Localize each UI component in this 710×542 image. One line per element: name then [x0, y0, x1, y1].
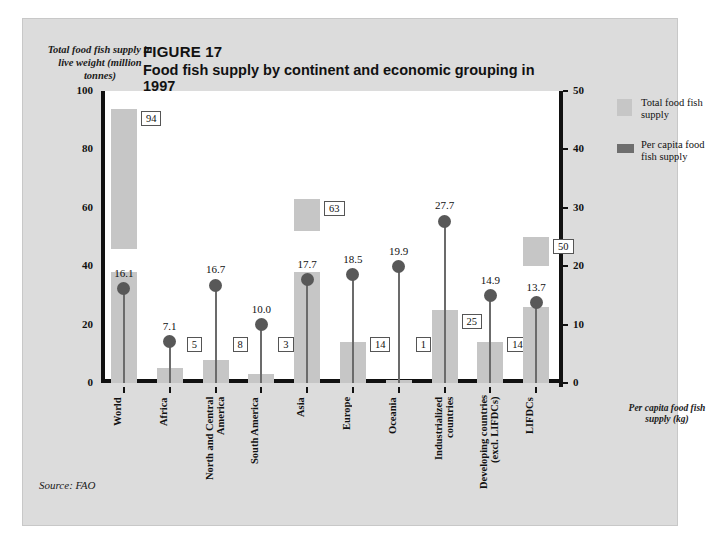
category-tick	[169, 387, 171, 393]
per-capita-marker	[301, 273, 314, 286]
total-supply-value-label: 5	[187, 337, 202, 352]
y2-tick-mark	[563, 90, 568, 92]
per-capita-value-label: 16.1	[102, 267, 146, 279]
per-capita-marker	[255, 318, 268, 331]
category-tick	[535, 387, 537, 393]
bar-swatch-icon	[617, 99, 632, 116]
category-tick	[123, 387, 125, 393]
per-capita-value-label: 27.7	[423, 199, 467, 211]
title-block: FIGURE 17 Food fish supply by continent …	[143, 43, 563, 94]
category-tick	[352, 387, 354, 393]
left-axis-title: Total food fish supply in live weight (m…	[41, 43, 159, 82]
category-label: Developing countries (excl. LIFDCs)	[478, 397, 500, 489]
y2-tick-label: 20	[573, 259, 603, 271]
legend: Total food fish supply Per capita food f…	[617, 97, 710, 181]
category-tick	[489, 387, 491, 393]
y2-tick-mark	[563, 324, 568, 326]
legend-label-total: Total food fish supply	[641, 97, 710, 121]
lollipop-swatch-icon	[617, 144, 634, 153]
category-label: Asia	[295, 397, 306, 489]
y2-tick-mark	[563, 207, 568, 209]
per-capita-marker	[209, 279, 222, 292]
per-capita-stem	[535, 303, 537, 383]
per-capita-value-label: 14.9	[468, 274, 512, 286]
per-capita-value-label: 17.7	[285, 258, 329, 270]
total-supply-bar-upper	[523, 237, 549, 266]
y2-tick-label: 50	[573, 84, 603, 96]
category-tick	[260, 387, 262, 393]
y-tick-label: 60	[59, 201, 93, 213]
y-tick-label: 80	[59, 142, 93, 154]
per-capita-stem	[260, 325, 262, 383]
page-title: Food fish supply by continent and econom…	[143, 62, 563, 94]
category-label: Industrialized countries	[433, 397, 455, 489]
category-tick	[444, 387, 446, 393]
y-tick-label: 40	[59, 259, 93, 271]
category-tick	[215, 387, 217, 393]
total-supply-value-label: 1	[416, 337, 431, 352]
y-tick-label: 20	[59, 318, 93, 330]
legend-item-percapita: Per capita food fish supply	[617, 139, 710, 163]
per-capita-stem	[215, 285, 217, 383]
total-supply-bar-upper	[111, 109, 137, 249]
right-axis-title: Per capita food fish supply (kg)	[619, 403, 710, 425]
total-supply-value-label: 8	[233, 337, 248, 352]
per-capita-stem	[352, 275, 354, 383]
category-label: Oceania	[387, 397, 398, 489]
y2-tick-mark	[563, 265, 568, 267]
total-supply-value-label: 94	[141, 111, 162, 126]
category-label: World	[112, 397, 123, 489]
y2-tick-label: 0	[573, 376, 603, 388]
total-supply-value-label: 25	[462, 314, 483, 329]
total-supply-bar-upper	[294, 199, 320, 231]
per-capita-stem	[123, 289, 125, 383]
category-label: Europe	[341, 397, 352, 489]
category-label: South America	[249, 397, 260, 489]
total-supply-value-label: 3	[278, 337, 293, 352]
per-capita-stem	[489, 296, 491, 383]
category-label: North and Central America	[204, 397, 226, 489]
y2-tick-label: 10	[573, 318, 603, 330]
per-capita-stem	[444, 221, 446, 383]
total-supply-value-label: 14	[370, 337, 391, 352]
total-supply-value-label: 50	[553, 239, 574, 254]
per-capita-value-label: 18.5	[331, 253, 375, 265]
y2-tick-mark	[563, 382, 568, 384]
legend-label-percapita: Per capita food fish supply	[641, 139, 710, 163]
y2-tick-mark	[563, 148, 568, 150]
source-note: Source: FAO	[39, 479, 96, 491]
figure-panel: Total food fish supply in live weight (m…	[22, 18, 678, 526]
figure-number: FIGURE 17	[143, 43, 563, 60]
y-tick-label: 100	[59, 84, 93, 96]
per-capita-value-label: 19.9	[377, 245, 421, 257]
category-label: LIFDCs	[524, 397, 535, 489]
per-capita-stem	[398, 267, 400, 383]
y2-tick-label: 40	[573, 142, 603, 154]
y-tick-label: 0	[59, 376, 93, 388]
total-supply-value-label: 63	[324, 201, 345, 216]
per-capita-stem	[306, 280, 308, 383]
per-capita-value-label: 13.7	[514, 281, 558, 293]
per-capita-value-label: 10.0	[239, 303, 283, 315]
legend-item-total: Total food fish supply	[617, 97, 710, 121]
y2-tick-label: 30	[573, 201, 603, 213]
category-label: Africa	[158, 397, 169, 489]
per-capita-marker	[438, 215, 451, 228]
category-tick	[306, 387, 308, 393]
per-capita-value-label: 7.1	[148, 320, 192, 332]
category-tick	[398, 387, 400, 393]
per-capita-value-label: 16.7	[194, 263, 238, 275]
